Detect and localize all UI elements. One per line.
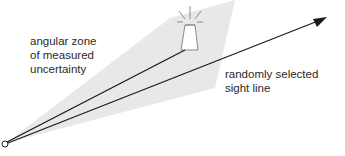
sight-label-line2: sight line [225,81,318,95]
zone-label-line1: angular zone [30,34,97,48]
uncertainty-zone-label: angular zone of measured uncertainty [30,34,97,76]
arrowhead-icon [313,17,327,27]
sight-label-line1: randomly selected [225,67,318,81]
sight-line-label: randomly selected sight line [225,67,318,95]
zone-label-line2: of measured [30,48,97,62]
zone-label-line3: uncertainty [30,62,97,76]
observer-point [2,141,8,147]
